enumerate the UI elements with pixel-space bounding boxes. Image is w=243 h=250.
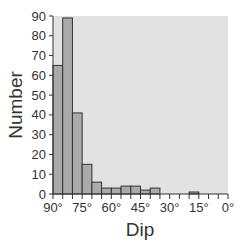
x-tick-label: 30° — [160, 200, 180, 215]
y-tick-label: 30 — [32, 127, 46, 142]
histogram-bar — [131, 186, 141, 194]
histogram-bar — [63, 18, 73, 194]
x-tick-label: 75° — [72, 200, 92, 215]
y-tick-label: 80 — [32, 28, 46, 43]
x-tick-label: 15° — [189, 200, 209, 215]
y-axis-title: Number — [5, 71, 26, 139]
y-tick-label: 20 — [32, 147, 46, 162]
histogram-bar — [72, 113, 82, 194]
histogram-bar — [121, 186, 131, 194]
x-axis: 90°75°60°45°30°15°0° — [43, 194, 234, 215]
histogram-bar — [92, 182, 102, 194]
y-tick-label: 10 — [32, 167, 46, 182]
y-tick-label: 60 — [32, 68, 46, 83]
histogram-bar — [53, 65, 63, 194]
y-tick-label: 90 — [32, 9, 46, 24]
dip-histogram-chart: 0102030405060708090 90°75°60°45°30°15°0°… — [0, 0, 243, 250]
x-axis-title: Dip — [126, 219, 155, 240]
y-axis: 0102030405060708090 — [32, 9, 53, 202]
histogram-bar — [82, 164, 92, 194]
x-tick-label: 90° — [43, 200, 63, 215]
y-tick-label: 40 — [32, 107, 46, 122]
histogram-bar — [102, 188, 112, 194]
y-tick-label: 70 — [32, 48, 46, 63]
histogram-bar — [111, 188, 121, 194]
x-tick-label: 60° — [101, 200, 121, 215]
y-tick-label: 50 — [32, 88, 46, 103]
histogram-bar — [141, 190, 151, 194]
x-tick-label: 45° — [131, 200, 151, 215]
histogram-bar — [150, 188, 160, 194]
x-tick-label: 0° — [222, 200, 234, 215]
